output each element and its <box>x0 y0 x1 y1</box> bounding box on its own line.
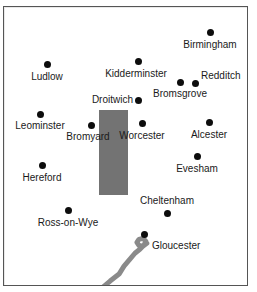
city-label-ross-on-wye: Ross-on-Wye <box>38 217 98 228</box>
city-label-gloucester: Gloucester <box>152 240 200 251</box>
map-figure: BirminghamLudlowKidderminsterRedditchBro… <box>0 0 257 292</box>
city-marker-hereford[interactable] <box>39 162 46 169</box>
city-marker-ross-on-wye[interactable] <box>65 207 72 214</box>
city-marker-alcester[interactable] <box>206 119 213 126</box>
city-label-ludlow: Ludlow <box>31 71 63 82</box>
city-label-redditch: Redditch <box>201 70 240 81</box>
city-marker-droitwich[interactable] <box>135 97 142 104</box>
city-label-bromyard: Bromyard <box>66 131 109 142</box>
city-marker-bromyard[interactable] <box>88 122 95 129</box>
city-marker-birmingham[interactable] <box>207 29 214 36</box>
city-label-kidderminster: Kidderminster <box>105 68 167 79</box>
city-marker-kidderminster[interactable] <box>135 58 142 65</box>
city-label-alcester: Alcester <box>191 129 227 140</box>
city-label-leominster: Leominster <box>15 120 64 131</box>
city-label-droitwich: Droitwich <box>92 94 133 105</box>
city-label-bromsgrove: Bromsgrove <box>153 88 207 99</box>
city-marker-evesham[interactable] <box>194 153 201 160</box>
city-marker-worcester[interactable] <box>139 120 146 127</box>
map-frame-border: BirminghamLudlowKidderminsterRedditchBro… <box>3 6 248 286</box>
city-label-birmingham: Birmingham <box>183 39 236 50</box>
city-marker-ludlow[interactable] <box>44 61 51 68</box>
city-marker-bromsgrove[interactable] <box>177 79 184 86</box>
city-label-cheltenham: Cheltenham <box>140 195 194 206</box>
city-marker-leominster[interactable] <box>37 111 44 118</box>
city-label-hereford: Hereford <box>23 172 62 183</box>
city-marker-redditch[interactable] <box>192 80 199 87</box>
city-marker-cheltenham[interactable] <box>164 210 171 217</box>
city-marker-gloucester[interactable] <box>141 231 148 238</box>
city-label-evesham: Evesham <box>176 163 218 174</box>
cities-layer: BirminghamLudlowKidderminsterRedditchBro… <box>4 7 247 285</box>
city-label-worcester: Worcester <box>119 130 164 141</box>
